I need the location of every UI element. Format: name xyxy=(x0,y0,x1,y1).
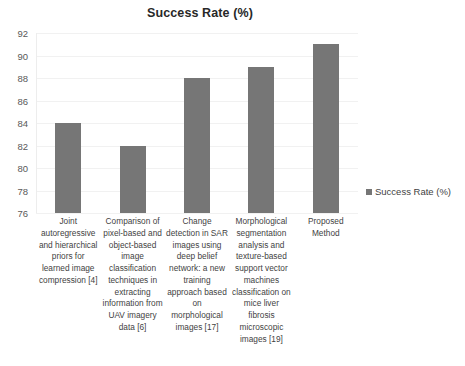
y-axis-tick-label: 86 xyxy=(17,95,28,106)
x-axis-category-label: Joint autoregressive and hierarchical pr… xyxy=(37,216,99,287)
y-axis-tick-label: 80 xyxy=(17,163,28,174)
bars-layer xyxy=(36,33,358,213)
y-axis-tick-label: 78 xyxy=(17,185,28,196)
x-axis-category-label: Morphological segmentation analysis and … xyxy=(230,216,292,346)
legend-label: Success Rate (%) xyxy=(375,186,451,197)
x-axis-category-label: Comparison of pixel-based and object-bas… xyxy=(102,216,164,334)
y-axis-tick-label: 92 xyxy=(17,28,28,39)
bar-chart: Success Rate (%) 929088868482807876 Join… xyxy=(0,0,465,366)
legend-swatch-icon xyxy=(366,189,372,195)
bar xyxy=(120,146,146,214)
y-axis-tick-label: 82 xyxy=(17,140,28,151)
plot-area xyxy=(36,33,358,213)
y-axis-tick-label: 90 xyxy=(17,50,28,61)
chart-title: Success Rate (%) xyxy=(0,6,400,20)
bar xyxy=(313,44,339,213)
x-axis-category-labels: Joint autoregressive and hierarchical pr… xyxy=(36,216,358,362)
y-axis-tick-label: 76 xyxy=(17,208,28,219)
bar xyxy=(55,123,81,213)
y-axis-labels: 929088868482807876 xyxy=(0,33,32,213)
y-axis-tick-label: 88 xyxy=(17,73,28,84)
gridline xyxy=(36,213,358,214)
y-axis-tick-label: 84 xyxy=(17,118,28,129)
x-axis-category-label: Change detection in SAR images using dee… xyxy=(166,216,228,334)
bar xyxy=(248,67,274,213)
chart-legend: Success Rate (%) xyxy=(366,186,451,197)
x-axis-category-label: Proposed Method xyxy=(295,216,357,240)
bar xyxy=(184,78,210,213)
